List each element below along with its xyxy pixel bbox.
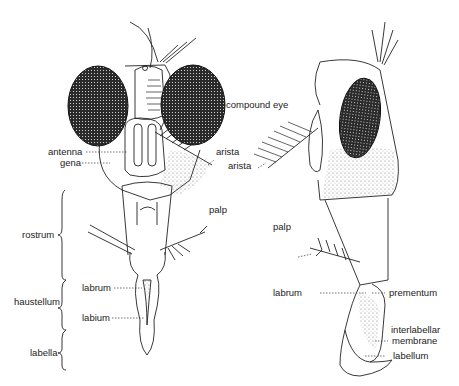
- label-compound-eye: compound eye: [226, 100, 288, 110]
- label-membrane: membrane: [392, 336, 437, 346]
- label-labrum-front: labrum: [82, 283, 111, 293]
- region-braces: [58, 190, 66, 370]
- label-labium: labium: [82, 313, 110, 323]
- label-prementum: prementum: [389, 288, 437, 298]
- label-arista-front: arista: [216, 147, 239, 157]
- label-haustellum: haustellum: [14, 297, 60, 307]
- label-palp-side: palp: [273, 222, 291, 232]
- label-labrum-side: labrum: [273, 288, 302, 298]
- label-labellum: labellum: [393, 351, 428, 361]
- front-left-eye: [68, 66, 128, 146]
- label-antenna: antenna: [48, 147, 82, 157]
- front-right-eye: [161, 65, 225, 145]
- label-labella: labella: [30, 348, 57, 358]
- label-rostrum: rostrum: [22, 230, 54, 240]
- label-gena: gena: [60, 158, 81, 168]
- label-palp-front: palp: [209, 205, 227, 215]
- front-view-proboscis: [88, 182, 207, 355]
- label-interlabellar: interlabellar: [391, 325, 440, 335]
- label-arista-side: arista: [228, 161, 251, 171]
